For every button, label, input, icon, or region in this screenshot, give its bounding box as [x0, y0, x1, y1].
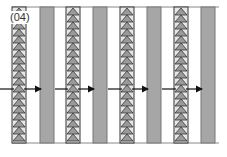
plain-column: [40, 7, 54, 143]
plain-column: [93, 7, 107, 143]
figure-label: (04): [9, 11, 31, 24]
plain-column: [201, 7, 215, 143]
plain-column: [147, 7, 161, 143]
striped-layer-diagram: [0, 0, 227, 157]
